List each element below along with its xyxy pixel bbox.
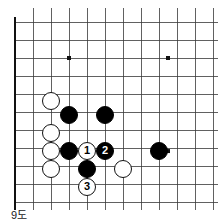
- star-point: [67, 56, 71, 60]
- star-point: [166, 56, 170, 60]
- stone-white[interactable]: [42, 142, 60, 160]
- stone-black[interactable]: [96, 106, 114, 124]
- stone-black[interactable]: [78, 160, 96, 178]
- stone-white-move-1[interactable]: 1: [78, 142, 96, 160]
- stone-white-move-3[interactable]: 3: [78, 178, 96, 196]
- go-diagram-figure: 123 9도: [0, 0, 218, 224]
- stone-white[interactable]: [114, 160, 132, 178]
- stone-black[interactable]: [60, 142, 78, 160]
- board-grid: [0, 0, 218, 210]
- stone-move-number: 1: [84, 145, 90, 156]
- go-board[interactable]: 123: [0, 0, 218, 210]
- figure-caption: 9도: [11, 206, 27, 222]
- stone-white[interactable]: [42, 160, 60, 178]
- stone-black[interactable]: [150, 142, 168, 160]
- stone-move-number: 3: [84, 181, 90, 192]
- stone-white[interactable]: [42, 124, 60, 142]
- stone-black[interactable]: [60, 106, 78, 124]
- stone-white[interactable]: [42, 92, 60, 110]
- stone-move-number: 2: [102, 145, 108, 156]
- stone-black-move-2[interactable]: 2: [96, 142, 114, 160]
